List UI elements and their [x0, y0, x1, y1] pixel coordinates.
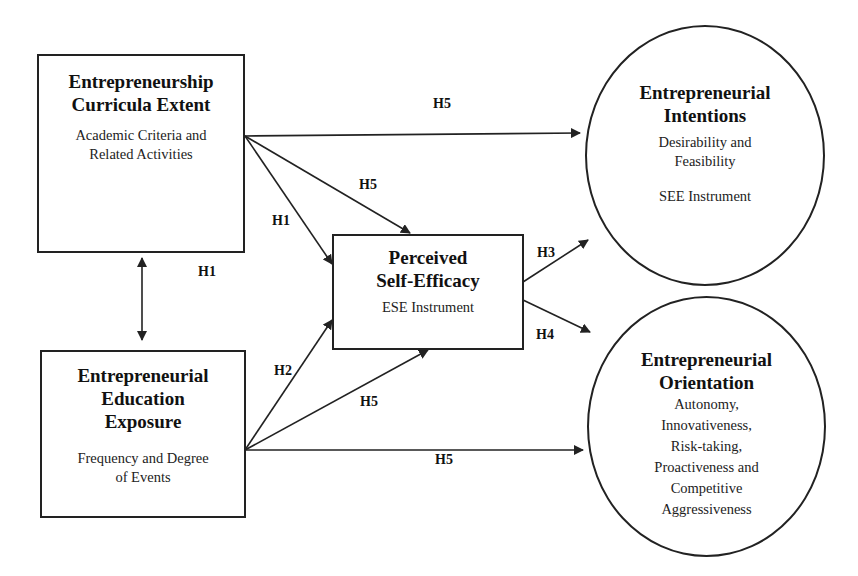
exposure-sub-line2: of Events — [42, 468, 244, 487]
arrow-efficacy-to-intentions — [523, 240, 588, 282]
exposure-title-line3: Exposure — [42, 410, 244, 433]
orientation-sub-line3: Risk-taking, — [589, 436, 824, 457]
curricula-title-line2: Curricula Extent — [39, 93, 243, 116]
intentions-sub-line3: SEE Instrument — [587, 187, 823, 206]
efficacy-title-line2: Self-Efficacy — [334, 269, 522, 292]
label-h2: H2 — [274, 363, 292, 379]
label-h1-curricula-efficacy: H1 — [272, 213, 290, 229]
intentions-sub-line1: Desirability and — [587, 133, 823, 152]
arrow-exposure-to-efficacy-h2 — [245, 320, 332, 450]
curricula-sub-line1: Academic Criteria and — [39, 126, 243, 145]
curricula-title-line1: Entrepreneurship — [39, 70, 243, 93]
arrow-efficacy-to-orientation — [523, 300, 590, 332]
orientation-sub-line4: Proactiveness and — [589, 457, 824, 478]
label-h5-curricula-intentions: H5 — [433, 96, 451, 112]
intentions-title-line1: Entrepreneurial — [587, 81, 823, 104]
orientation-sub-line2: Innovativeness, — [589, 415, 824, 436]
label-h5-curricula-efficacy: H5 — [359, 177, 377, 193]
intentions-sub-line2: Feasibility — [587, 152, 823, 171]
label-h5-exposure-efficacy: H5 — [360, 394, 378, 410]
node-entrepreneurial-intentions: Entrepreneurial Intentions Desirability … — [585, 25, 825, 286]
orientation-sub-line5: Competitive — [589, 478, 824, 499]
label-h5-exposure-orientation: H5 — [435, 452, 453, 468]
node-perceived-self-efficacy: Perceived Self-Efficacy ESE Instrument — [332, 234, 524, 350]
intentions-title-line2: Intentions — [587, 104, 823, 127]
arrow-exposure-to-efficacy-h5 — [245, 350, 428, 450]
node-entrepreneurial-orientation: Entrepreneurial Orientation Autonomy, In… — [587, 296, 826, 557]
label-h3: H3 — [537, 245, 555, 261]
orientation-sub-line1: Autonomy, — [589, 394, 824, 415]
node-education-exposure: Entrepreneurial Education Exposure Frequ… — [40, 350, 246, 518]
arrow-curricula-to-efficacy-h5 — [245, 136, 410, 233]
exposure-sub-line1: Frequency and Degree — [42, 449, 244, 468]
orientation-title-line1: Entrepreneurial — [589, 348, 824, 371]
exposure-title-line1: Entrepreneurial — [42, 364, 244, 387]
orientation-title-line2: Orientation — [589, 371, 824, 394]
efficacy-title-line1: Perceived — [334, 246, 522, 269]
exposure-title-line2: Education — [42, 387, 244, 410]
node-curricula-extent: Entrepreneurship Curricula Extent Academ… — [37, 54, 245, 253]
label-h1-curricula-exposure: H1 — [198, 264, 216, 280]
orientation-sub-line6: Aggressiveness — [589, 499, 824, 520]
curricula-sub-line2: Related Activities — [39, 145, 243, 164]
arrow-curricula-to-intentions — [245, 133, 580, 136]
label-h4: H4 — [536, 327, 554, 343]
efficacy-sub-line1: ESE Instrument — [334, 298, 522, 317]
arrow-curricula-to-efficacy-h1 — [245, 136, 332, 264]
